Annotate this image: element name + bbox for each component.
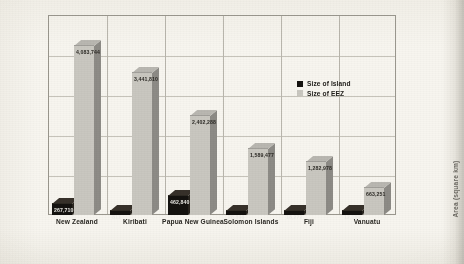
bar-value-label: 18,272 (286, 214, 302, 220)
bar-front-face (74, 45, 94, 215)
bar-value-label: 3,441,810 (134, 76, 158, 82)
legend-item-size-of-eez: Size of EEZ (297, 90, 351, 97)
bar-side-face (94, 40, 101, 215)
bar-front-face (248, 148, 268, 215)
chart-legend: Size of Island Size of EEZ (297, 80, 351, 99)
x-axis-label-papua-new-guinea: Papua New Guinea (160, 218, 226, 226)
bar-side-face (210, 110, 217, 215)
bar-value-label: 1,589,477 (250, 152, 274, 158)
legend-item-size-of-island: Size of Island (297, 80, 351, 87)
bar-value-label: 28,896 (228, 214, 244, 220)
bar-front-face (190, 115, 210, 215)
bar-kiribati-eez (132, 73, 152, 215)
bar-value-label: 663,251 (366, 191, 385, 197)
bar-value-label: 4,083,744 (76, 49, 100, 55)
x-axis-label-new-zealand: New Zealand (44, 218, 110, 226)
legend-swatch-eez (297, 90, 303, 96)
bar-front-face (132, 72, 152, 215)
bar-value-label: 2,402,288 (192, 119, 216, 125)
bar-papua-new-guinea-eez (190, 116, 210, 215)
bar-value-label: 12,189 (344, 214, 360, 220)
bar-value-label: 462,840 (170, 199, 189, 205)
bar-value-label: 1,282,978 (308, 165, 332, 171)
y-axis-title: Area (square km) (452, 161, 459, 218)
legend-swatch-island (297, 81, 303, 87)
bar-side-face (152, 67, 159, 215)
bar-chart: 267,710811462,84028,89618,27212,1894,083… (14, 10, 404, 232)
bar-value-label: 811 (112, 214, 121, 220)
bar-value-label: 267,710 (54, 207, 73, 213)
legend-label-eez: Size of EEZ (307, 90, 344, 97)
bar-series-area: 267,710811462,84028,89618,27212,1894,083… (48, 15, 396, 215)
bar-new-zealand-eez (74, 46, 94, 215)
legend-label-island: Size of Island (307, 80, 351, 87)
bar-solomon-islands-eez (248, 149, 268, 215)
